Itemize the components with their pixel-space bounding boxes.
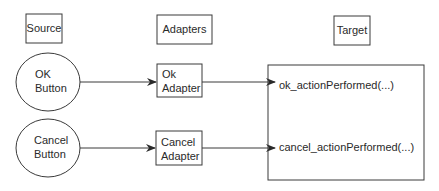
cancel-adapter-box: Cancel Adapter [156,131,202,165]
source-header: Source [26,14,62,43]
adapters-header: Adapters [157,15,212,44]
target-header: Target [334,16,370,45]
ok-adapter-box: Ok Adapter [157,64,202,97]
cancel-button-label-line2: Button [34,148,66,160]
adapters-header-label: Adapters [162,23,207,35]
ok-action-performed-method: ok_actionPerformed(...) [279,79,394,91]
ok-adapter-label-line1: Ok [162,68,177,80]
cancel-adapter-label-line1: Cancel [161,136,195,148]
target-header-label: Target [337,24,368,36]
cancel-button-source: Cancel Button [16,119,80,177]
adapter-diagram: Source Adapters Target OK Button Cancel … [0,0,439,191]
cancel-adapter-label-line2: Adapter [161,150,200,162]
target-box: ok_actionPerformed(...) cancel_actionPer… [268,65,424,180]
source-header-label: Source [27,22,62,34]
cancel-button-label-line1: Cancel [34,134,68,146]
ok-button-source: OK Button [16,53,80,111]
cancel-action-performed-method: cancel_actionPerformed(...) [279,141,414,153]
ok-button-label-line1: OK [35,68,52,80]
ok-adapter-label-line2: Adapter [162,82,201,94]
ok-button-label-line2: Button [35,82,67,94]
